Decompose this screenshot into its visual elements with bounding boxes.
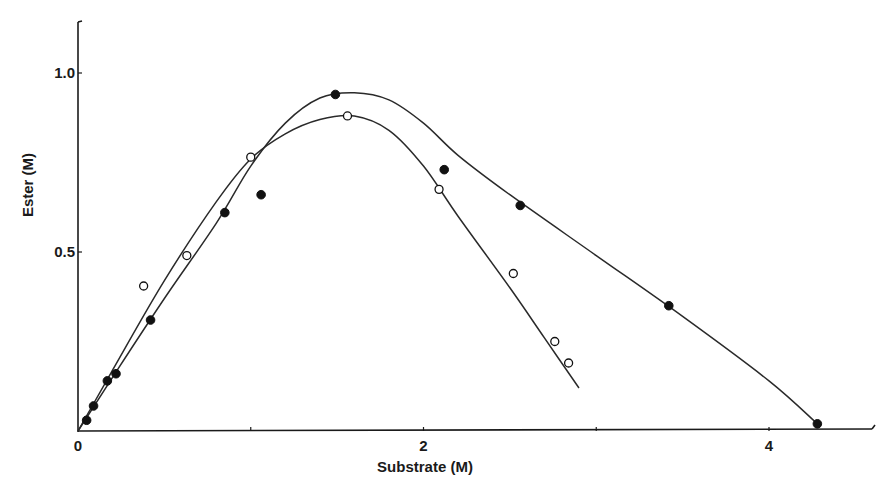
y-axis: [78, 21, 82, 432]
open-circle-point: [551, 338, 559, 346]
axis-ticks: 0240.51.0: [54, 64, 774, 454]
open-circle-point: [183, 252, 191, 260]
chart-figure: 0240.51.0 Substrate (M) Ester (M): [0, 0, 887, 501]
filled-circle-point: [146, 316, 155, 325]
x-axis: [78, 425, 875, 431]
open-circle-point: [435, 185, 443, 193]
filled-circle-point: [331, 90, 340, 99]
fit-curve-open-circles: [78, 115, 579, 431]
filled-circle-point: [103, 377, 112, 386]
y-tick-label: 0.5: [54, 243, 75, 260]
fitted-curves: [78, 93, 817, 431]
filled-circle-point: [516, 201, 525, 210]
open-circle-point: [140, 282, 148, 290]
filled-circle-point: [82, 416, 91, 425]
x-tick-label: 4: [765, 437, 774, 454]
filled-circle-point: [813, 420, 822, 429]
data-points: [82, 90, 821, 428]
open-circle-point: [565, 359, 573, 367]
y-axis-title: Ester (M): [19, 153, 36, 217]
filled-circle-point: [221, 208, 230, 217]
open-circle-point: [509, 269, 517, 277]
x-axis-title: Substrate (M): [377, 458, 473, 475]
filled-circle-point: [89, 402, 98, 411]
filled-circle-point: [257, 190, 266, 199]
filled-circle-point: [440, 165, 449, 174]
y-tick-label: 1.0: [54, 64, 75, 81]
fit-curve-filled-circles: [78, 93, 817, 431]
filled-circle-point: [112, 369, 121, 378]
open-circle-point: [343, 112, 351, 120]
filled-circle-point: [665, 301, 674, 310]
open-circle-point: [247, 153, 255, 161]
x-tick-label: 0: [74, 437, 82, 454]
x-tick-label: 2: [419, 437, 427, 454]
